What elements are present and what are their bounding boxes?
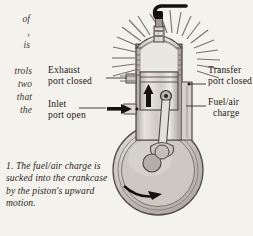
- margin-fragment-2: ,: [0, 27, 30, 38]
- label-transfer-line2: port closed: [208, 75, 252, 86]
- margin-fragment-4: trols: [0, 66, 32, 77]
- margin-fragment-6: that: [0, 92, 32, 103]
- label-exhaust-line2: port closed: [48, 75, 92, 86]
- illustration-page: of , is trols two that the Exhaust port …: [0, 0, 253, 236]
- margin-fragment-1: of: [0, 14, 30, 25]
- margin-fragment-5: two: [0, 79, 32, 90]
- transfer-passage: [182, 82, 192, 140]
- margin-fragment-3: is: [0, 40, 30, 51]
- combustion-chamber: [140, 41, 178, 72]
- label-fuelair-line1: Fuel/air: [208, 96, 239, 107]
- spark-plug-cap: [154, 11, 163, 19]
- margin-fragment-7: the: [0, 105, 32, 116]
- label-transfer-line1: Transfer: [208, 64, 241, 75]
- label-exhaust-line1: Exhaust: [48, 64, 80, 75]
- figure-caption: 1. The fuel/air charge is sucked into th…: [6, 160, 110, 210]
- label-fuelair-line2: charge: [213, 107, 239, 118]
- label-inlet-line2: port open: [48, 109, 86, 120]
- exhaust-port: [120, 74, 136, 83]
- label-inlet-line1: Inlet: [48, 98, 66, 109]
